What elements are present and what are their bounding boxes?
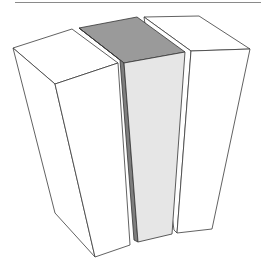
blocks-diagram — [0, 0, 261, 267]
left-block — [13, 29, 130, 257]
diagram-canvas — [0, 0, 261, 267]
